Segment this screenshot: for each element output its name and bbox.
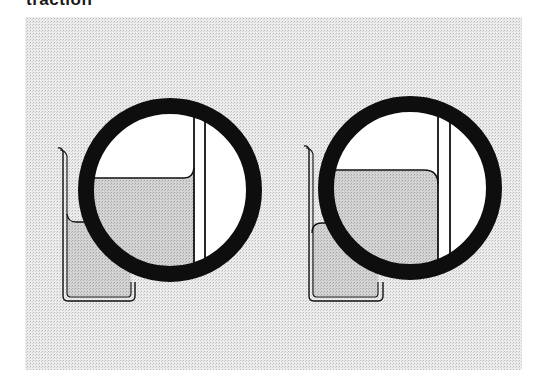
meniscus-figure <box>0 0 542 387</box>
